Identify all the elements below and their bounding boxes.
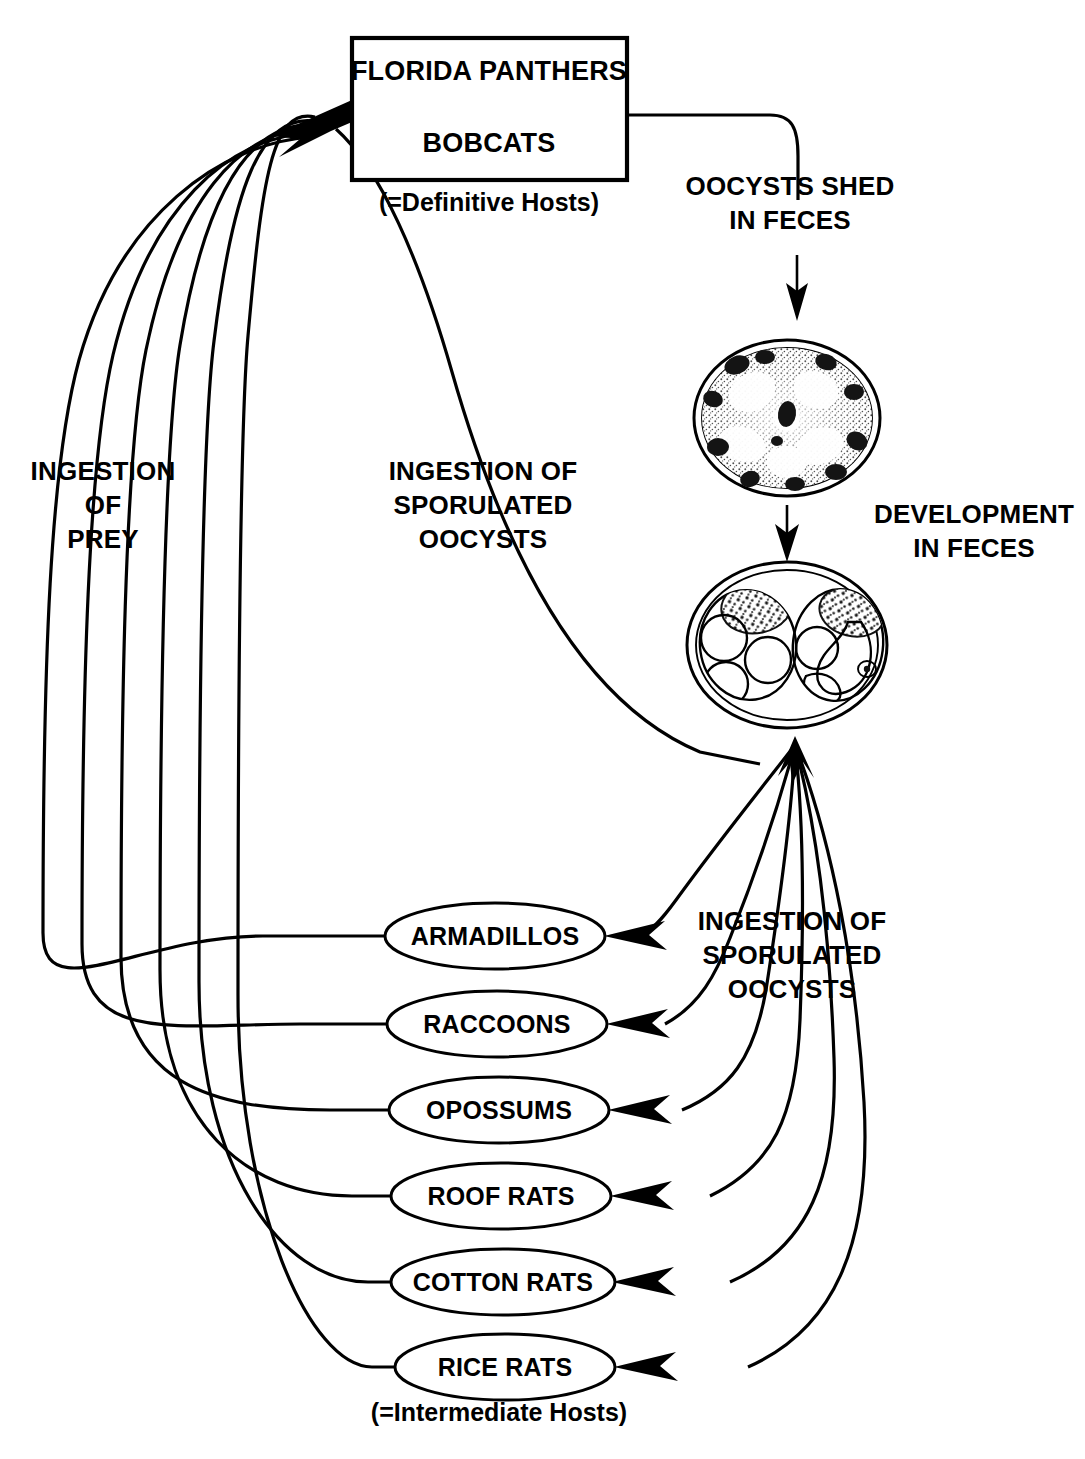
intermediate-host-label: ROOF RATS (427, 1182, 574, 1210)
arrowhead-raccoons (606, 1009, 670, 1038)
label-oocysts-shed-line2: IN FECES (729, 205, 851, 235)
arrowhead-roof-rats (610, 1181, 674, 1210)
intermediate-host-opossums[interactable]: OPOSSUMS (389, 1077, 609, 1143)
intermediate-host-armadillos[interactable]: ARMADILLOS (385, 903, 605, 969)
label-development-line1: DEVELOPMENT (874, 499, 1074, 529)
intermediate-host-cotton-rats[interactable]: COTTON RATS (391, 1249, 615, 1315)
label-ingestion-sporulated-left-line3: OOCYSTS (419, 524, 548, 554)
definitive-host-box: FLORIDA PANTHERS BOBCATS (=Definitive Ho… (351, 38, 627, 216)
arrowhead-cotton-rats (612, 1267, 676, 1296)
arrowhead-armadillos (604, 921, 667, 950)
label-development-line2: IN FECES (913, 533, 1035, 563)
arrowhead-opossums (608, 1095, 672, 1124)
sporulated-oocyst-illustration (687, 562, 890, 728)
label-ingestion-sporulated-left-line1: INGESTION OF (389, 456, 578, 486)
label-ingestion-sporulated-right-line3: OOCYSTS (728, 974, 857, 1004)
box-line-florida-panthers: FLORIDA PANTHERS (351, 56, 627, 86)
box-line-bobcats: BOBCATS (423, 128, 556, 158)
label-oocysts-shed-line1: OOCYSTS SHED (686, 171, 895, 201)
intermediate-host-label: RICE RATS (438, 1353, 573, 1381)
intermediate-hosts-caption: (=Intermediate Hosts) (371, 1398, 627, 1426)
intermediate-host-rice-rats[interactable]: RICE RATS (395, 1334, 615, 1400)
label-ingestion-of-prey-line3: PREY (67, 524, 139, 554)
intermediate-host-label: COTTON RATS (413, 1268, 593, 1296)
life-cycle-diagram: FLORIDA PANTHERS BOBCATS (=Definitive Ho… (0, 0, 1085, 1459)
prey-curve-tails (43, 933, 398, 1367)
intermediate-host-raccoons[interactable]: RACCOONS (387, 991, 607, 1057)
ellipse-inbound-arrowheads (604, 921, 678, 1381)
intermediate-host-label: RACCOONS (423, 1010, 570, 1038)
diagram-canvas: FLORIDA PANTHERS BOBCATS (=Definitive Ho… (0, 0, 1085, 1459)
label-ingestion-sporulated-left-line2: SPORULATED (393, 490, 572, 520)
intermediate-host-nodes: ARMADILLOS RACCOONS OPOSSUMS ROOF RATS C… (385, 903, 615, 1400)
label-ingestion-of-prey-line2: OF (85, 490, 122, 520)
intermediate-host-roof-rats[interactable]: ROOF RATS (391, 1163, 611, 1229)
definitive-hosts-caption: (=Definitive Hosts) (379, 188, 599, 216)
label-ingestion-sporulated-right-line1: INGESTION OF (698, 906, 887, 936)
label-ingestion-sporulated-right-line2: SPORULATED (702, 940, 881, 970)
intermediate-host-label: OPOSSUMS (426, 1096, 572, 1124)
development-arrow (775, 505, 799, 562)
label-ingestion-of-prey-line1: INGESTION (31, 456, 176, 486)
ingestion-sporulated-oocysts-right-arrow-group (640, 736, 865, 1367)
unsporulated-oocyst-illustration (694, 340, 880, 496)
arrowhead-rice-rats (614, 1352, 678, 1381)
intermediate-host-label: ARMADILLOS (411, 922, 580, 950)
